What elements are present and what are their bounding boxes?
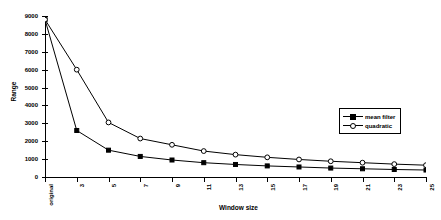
series-layer — [45, 16, 426, 177]
series-line-mean-filter — [45, 20, 426, 170]
x-tick-label: 13 — [238, 184, 244, 191]
y-tick — [42, 52, 48, 53]
x-tick — [299, 177, 300, 182]
y-tick — [42, 34, 48, 35]
plot-area — [45, 16, 426, 177]
data-point — [75, 128, 79, 132]
x-tick — [45, 177, 46, 182]
x-tick-label: original — [48, 184, 54, 206]
data-point — [297, 157, 302, 162]
y-tick-label: 0 — [0, 174, 38, 180]
x-tick — [426, 177, 427, 182]
x-tick — [236, 177, 237, 182]
data-point — [106, 120, 111, 125]
x-tick-label: 25 — [429, 184, 435, 191]
legend-marker-open-circle-icon — [343, 121, 363, 130]
legend-marker-filled-square-icon — [343, 112, 363, 121]
y-tick — [42, 141, 48, 142]
data-point — [202, 161, 206, 165]
data-point — [392, 167, 396, 171]
x-tick-label: 15 — [270, 184, 276, 191]
x-tick-label: 5 — [111, 184, 117, 187]
data-point — [107, 148, 111, 152]
x-tick — [363, 177, 364, 182]
x-tick-label: 19 — [333, 184, 339, 191]
data-point — [297, 165, 301, 169]
chart-legend: mean filter quadratic — [339, 108, 401, 134]
x-axis-title-text: Window size — [219, 204, 258, 211]
data-point — [234, 162, 238, 166]
y-tick-label: 2000 — [0, 138, 38, 144]
y-tick-label: 9000 — [0, 13, 38, 19]
x-tick — [204, 177, 205, 182]
data-point — [329, 166, 333, 170]
data-point — [138, 154, 142, 158]
x-tick-label: 21 — [365, 184, 371, 191]
y-tick-label: 6000 — [0, 67, 38, 73]
x-tick — [331, 177, 332, 182]
data-point — [424, 168, 426, 172]
x-tick — [267, 177, 268, 182]
x-tick-label: 3 — [79, 184, 85, 187]
x-tick — [172, 177, 173, 182]
x-tick-label: 17 — [302, 184, 308, 191]
data-point — [170, 142, 175, 147]
data-point — [74, 67, 79, 72]
y-tick — [42, 123, 48, 124]
x-tick-label: 7 — [143, 184, 149, 187]
y-tick — [42, 88, 48, 89]
y-tick — [42, 16, 48, 17]
y-tick-label: 3000 — [0, 120, 38, 126]
legend-item-quadratic[interactable]: quadratic — [343, 121, 395, 130]
chart-figure: Range 0100020003000400050006000700080009… — [0, 0, 441, 220]
y-tick — [42, 105, 48, 106]
y-tick-label: 8000 — [0, 31, 38, 37]
data-point — [360, 160, 365, 165]
x-tick — [109, 177, 110, 182]
series-line-quadratic — [45, 20, 426, 166]
x-tick — [140, 177, 141, 182]
data-point — [361, 167, 365, 171]
x-axis-title: Window size — [0, 204, 441, 211]
data-point — [265, 164, 269, 168]
y-tick-label: 7000 — [0, 49, 38, 55]
x-tick — [394, 177, 395, 182]
y-tick — [42, 159, 48, 160]
data-point — [138, 136, 143, 141]
y-tick-label: 1000 — [0, 156, 38, 162]
legend-label-mean-filter: mean filter — [365, 114, 395, 120]
x-tick — [77, 177, 78, 182]
y-tick-label: 5000 — [0, 85, 38, 91]
x-tick-label: 9 — [175, 184, 181, 187]
y-tick — [42, 70, 48, 71]
x-tick-label: 11 — [206, 184, 212, 190]
data-point — [233, 152, 238, 157]
data-point — [170, 158, 174, 162]
legend-item-mean-filter[interactable]: mean filter — [343, 112, 395, 121]
y-tick-label: 4000 — [0, 102, 38, 108]
data-point — [201, 149, 206, 154]
data-point — [392, 162, 397, 167]
legend-label-quadratic: quadratic — [365, 123, 392, 129]
data-point — [45, 17, 47, 22]
data-point — [424, 163, 426, 168]
x-tick-label: 23 — [397, 184, 403, 191]
data-point — [265, 155, 270, 160]
data-point — [328, 159, 333, 164]
